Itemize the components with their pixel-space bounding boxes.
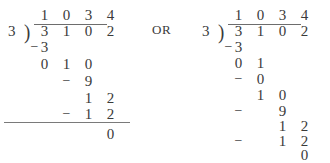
dividend-digit: 2 xyxy=(102,24,119,39)
step-digit: 1 xyxy=(252,56,269,71)
step-digit: 0 xyxy=(230,56,247,71)
step-digit: 0 xyxy=(102,127,119,142)
subtraction-sign: − xyxy=(230,134,247,148)
quotient-digit: 4 xyxy=(102,8,119,23)
divisor-value: 3 xyxy=(8,24,16,39)
subtraction-sign: − xyxy=(58,107,75,121)
step-digit: 0 xyxy=(36,57,53,72)
quotient-digit: 3 xyxy=(274,8,291,23)
quotient-digit: 4 xyxy=(296,8,313,23)
subtraction-sign: − xyxy=(230,104,247,118)
quotient-digit: 3 xyxy=(80,8,97,23)
step-digit: 9 xyxy=(80,74,97,89)
quotient-digit: 1 xyxy=(230,8,247,23)
dividend-digit: 1 xyxy=(252,24,269,39)
step-digit: 9 xyxy=(274,104,291,119)
step-digit: 3 xyxy=(230,40,247,55)
step-digit: 1 xyxy=(252,88,269,103)
dividend-digit: 0 xyxy=(80,24,97,39)
step-digit: 0 xyxy=(252,72,269,87)
subtraction-sign: − xyxy=(58,74,75,88)
step-digit: 3 xyxy=(36,40,53,55)
quotient-digit: 0 xyxy=(252,8,269,23)
subtraction-sign: − xyxy=(230,72,247,86)
dividend-digit: 3 xyxy=(230,24,247,39)
step-digit: 1 xyxy=(274,134,291,149)
step-digit: 2 xyxy=(296,119,313,134)
quotient-digit: 0 xyxy=(58,8,75,23)
step-digit: 0 xyxy=(274,88,291,103)
step-digit: 2 xyxy=(102,91,119,106)
step-digit: 0 xyxy=(80,57,97,72)
summary-rule xyxy=(4,122,130,123)
long-division-worksheet: 3)10343102−3010−912−120 OR 3)10343102−30… xyxy=(0,0,330,163)
step-digit: 1 xyxy=(274,119,291,134)
dividend-digit: 1 xyxy=(58,24,75,39)
dividend-digit: 0 xyxy=(274,24,291,39)
step-digit: 1 xyxy=(80,107,97,122)
step-digit: 0 xyxy=(296,148,313,163)
dividend-digit: 2 xyxy=(296,24,313,39)
step-digit: 2 xyxy=(102,107,119,122)
dividend-digit: 3 xyxy=(36,24,53,39)
step-digit: 1 xyxy=(58,57,75,72)
or-connector-label: OR xyxy=(152,22,171,38)
step-digit: 1 xyxy=(80,91,97,106)
quotient-digit: 1 xyxy=(36,8,53,23)
divisor-value: 3 xyxy=(202,24,210,39)
